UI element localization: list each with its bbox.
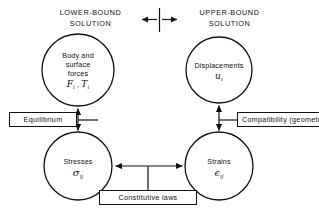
- header-upper-bound-line1: UPPER-BOUND: [177, 8, 282, 19]
- header-lower-bound: LOWER-BOUND SOLUTION: [38, 8, 143, 29]
- diagram-canvas: LOWER-BOUND SOLUTION UPPER-BOUND SOLUTIO…: [0, 0, 319, 215]
- node-label-stresses: Stresses σij: [38, 157, 118, 181]
- displacements-symbol-row: ui: [179, 72, 259, 84]
- diagram-graphics-layer: [0, 0, 319, 215]
- strains-line1: Strains: [179, 157, 259, 166]
- body-forces-line2: surface: [38, 60, 118, 69]
- strains-symbol-row: ϵij: [179, 168, 259, 181]
- node-label-body-surface-forces: Body and surface forces Fi , Ti: [38, 51, 118, 91]
- header-lower-bound-line1: LOWER-BOUND: [38, 8, 143, 19]
- symbol-T-subscript: i: [87, 83, 89, 89]
- symbol-u-subscript: i: [221, 76, 223, 82]
- body-forces-line3: forces: [38, 69, 118, 78]
- box-compatibility-label: Compatibility (geometry): [242, 115, 319, 124]
- header-upper-bound-line2: SOLUTION: [177, 19, 282, 30]
- body-forces-line1: Body and: [38, 51, 118, 60]
- node-label-strains: Strains ϵij: [179, 157, 259, 181]
- displacements-line1: Displacements: [179, 61, 259, 70]
- node-label-displacements: Displacements ui: [179, 61, 259, 84]
- symbol-sigma-subscript: ij: [80, 173, 84, 179]
- box-equilibrium-label: Equilibrium: [24, 115, 63, 124]
- body-forces-symbols: Fi , Ti: [38, 80, 118, 92]
- symbol-epsilon-subscript: ij: [220, 173, 224, 179]
- stresses-symbol-row: σij: [38, 168, 118, 181]
- stresses-line1: Stresses: [38, 157, 118, 166]
- box-constitutive-laws[interactable]: Constitutive laws: [99, 190, 197, 205]
- header-upper-bound: UPPER-BOUND SOLUTION: [177, 8, 282, 29]
- header-lower-bound-line2: SOLUTION: [38, 19, 143, 30]
- symbol-sigma: σ: [73, 167, 80, 178]
- box-compatibility[interactable]: Compatibility (geometry): [237, 112, 319, 127]
- box-equilibrium[interactable]: Equilibrium: [9, 112, 77, 127]
- box-constitutive-laws-label: Constitutive laws: [118, 193, 177, 202]
